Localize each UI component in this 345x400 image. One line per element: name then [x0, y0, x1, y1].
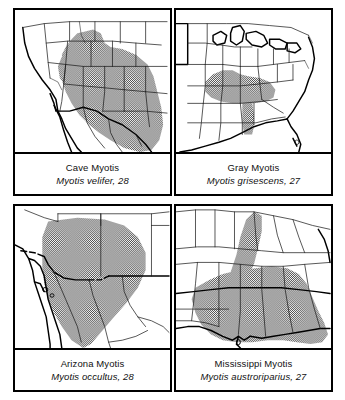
map-arizona-myotis — [15, 206, 170, 350]
map-cave-myotis — [15, 10, 170, 154]
panel-grid: Cave Myotis Myotis velifer, 28 — [13, 8, 333, 392]
common-name-gray-myotis: Gray Myotis — [228, 161, 280, 174]
common-name-arizona-myotis: Arizona Myotis — [61, 357, 125, 370]
panel-gray-myotis: Gray Myotis Myotis grisescens, 27 — [174, 8, 333, 196]
map-svg-arizona-myotis — [15, 206, 170, 348]
panel-arizona-myotis: Arizona Myotis Myotis occultus, 28 — [13, 204, 172, 392]
map-svg-cave-myotis — [15, 10, 170, 152]
common-name-mississippi-myotis: Mississippi Myotis — [215, 357, 293, 370]
caption-cave-myotis: Cave Myotis Myotis velifer, 28 — [15, 154, 170, 194]
caption-mississippi-myotis: Mississippi Myotis Myotis austroriparius… — [176, 350, 331, 390]
map-svg-mississippi-myotis — [176, 206, 331, 348]
scientific-name-arizona-myotis: Myotis occultus, 28 — [51, 370, 134, 383]
panel-mississippi-myotis: Mississippi Myotis Myotis austroriparius… — [174, 204, 333, 392]
map-mississippi-myotis — [176, 206, 331, 350]
distribution-map-figure: Cave Myotis Myotis velifer, 28 — [0, 0, 345, 400]
caption-arizona-myotis: Arizona Myotis Myotis occultus, 28 — [15, 350, 170, 390]
map-gray-myotis — [176, 10, 331, 154]
scientific-name-gray-myotis: Myotis grisescens, 27 — [207, 174, 300, 187]
common-name-cave-myotis: Cave Myotis — [66, 161, 119, 174]
caption-gray-myotis: Gray Myotis Myotis grisescens, 27 — [176, 154, 331, 194]
map-svg-gray-myotis — [176, 10, 331, 152]
scientific-name-mississippi-myotis: Myotis austroriparius, 27 — [201, 370, 307, 383]
panel-cave-myotis: Cave Myotis Myotis velifer, 28 — [13, 8, 172, 196]
scientific-name-cave-myotis: Myotis velifer, 28 — [56, 174, 129, 187]
